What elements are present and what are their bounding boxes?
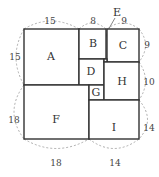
square-f: [24, 85, 89, 139]
dim-arc-bottom-i: [89, 139, 139, 149]
dim-top-a: 15: [44, 16, 56, 26]
label-c: C: [119, 39, 127, 52]
dim-top-b: 8: [90, 16, 96, 26]
dim-arc-right-i: [139, 100, 148, 139]
label-h: H: [117, 75, 127, 88]
dim-bottom-f: 18: [50, 158, 62, 168]
label-a: A: [46, 50, 56, 63]
dim-right-c: 9: [144, 40, 150, 50]
label-e: E: [113, 6, 121, 19]
dim-arc-bottom-f: [24, 139, 89, 149]
dim-arc-left-f: [14, 85, 24, 139]
label-b: B: [89, 37, 97, 50]
label-f: F: [52, 113, 60, 126]
dim-left-a: 15: [9, 52, 21, 62]
dim-left-f: 18: [8, 115, 20, 125]
squared-rectangle-diagram: A B C D E F G H I 15 8 9 15 9 10 18 14 1…: [0, 0, 159, 177]
dim-top-c: 9: [121, 16, 127, 26]
dim-bottom-i: 14: [109, 158, 121, 168]
label-g: G: [92, 86, 101, 99]
dim-right-i: 14: [143, 123, 155, 133]
label-i: I: [112, 121, 116, 134]
dim-right-h: 10: [143, 77, 155, 87]
label-d: D: [87, 65, 96, 78]
